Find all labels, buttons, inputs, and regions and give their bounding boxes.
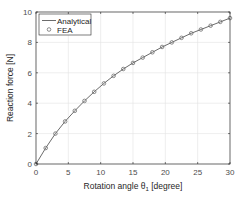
y-tick-label: 0 (28, 160, 33, 169)
legend-fea-label: FEA (57, 26, 73, 35)
x-tick-label: 25 (193, 168, 202, 177)
y-tick-label: 2 (28, 130, 33, 139)
x-tick-label: 15 (129, 168, 138, 177)
y-axis-label: Reaction force [N] (5, 54, 15, 122)
x-tick-label: 30 (226, 168, 235, 177)
y-tick-label: 8 (28, 38, 33, 47)
x-axis-label: Rotation angle θ1 [degree] (84, 181, 183, 192)
y-tick-label: 6 (28, 69, 33, 78)
y-tick-label: 10 (23, 8, 32, 17)
x-tick-label: 5 (66, 168, 71, 177)
x-tick-label: 20 (161, 168, 170, 177)
legend-analytical-label: Analytical (57, 17, 91, 26)
legend: Analytical FEA (39, 14, 91, 35)
reaction-force-chart: 051015202530 0246810 Analytical FEA Rota… (0, 0, 246, 205)
x-tick-label: 0 (34, 168, 39, 177)
y-tick-label: 4 (28, 99, 33, 108)
x-tick-label: 10 (96, 168, 105, 177)
